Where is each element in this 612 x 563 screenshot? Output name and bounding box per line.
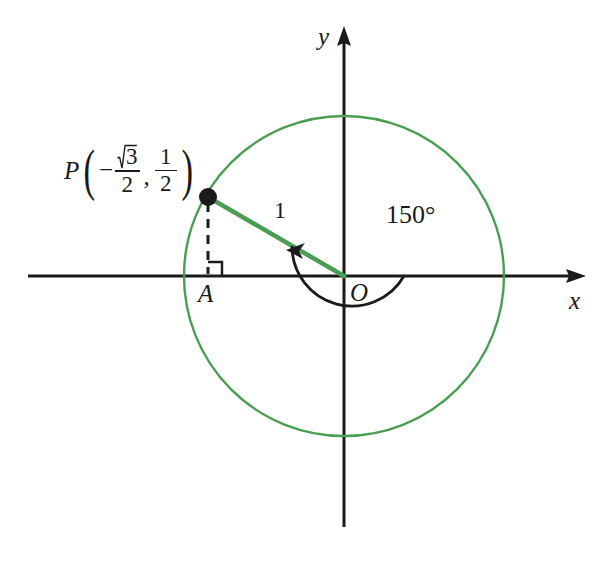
point-p-dot bbox=[199, 188, 217, 206]
diagram-canvas bbox=[0, 0, 612, 563]
radical-glyph-icon bbox=[117, 144, 126, 169]
y-axis-arrowhead-icon bbox=[337, 26, 351, 46]
x-axis bbox=[28, 269, 586, 283]
radius-length-label: 1 bbox=[274, 198, 286, 222]
right-angle-marker-icon bbox=[208, 262, 222, 276]
point-p-label: P ( − 3 2 , 1 2 ) bbox=[64, 144, 196, 197]
angle-measure-label: 150° bbox=[386, 202, 435, 228]
unit-circle-figure: y x O A 1 150° P ( − 3 2 , 1 bbox=[0, 0, 612, 563]
point-p-name: P bbox=[64, 158, 79, 183]
x-coordinate-fraction: 3 2 bbox=[115, 144, 140, 197]
x-coord-numerator-radical: 3 bbox=[115, 144, 140, 170]
y-coord-denominator: 2 bbox=[158, 171, 174, 196]
open-paren: ( bbox=[84, 150, 96, 190]
close-paren: ) bbox=[181, 150, 193, 190]
foot-point-a-label: A bbox=[198, 281, 213, 306]
square-root-icon: 3 bbox=[117, 144, 138, 169]
y-coordinate-fraction: 1 2 bbox=[155, 145, 177, 197]
y-coord-numerator: 1 bbox=[158, 145, 174, 170]
y-axis-label: y bbox=[318, 24, 329, 49]
coordinate-separator-comma: , bbox=[144, 164, 150, 189]
x-axis-arrowhead-icon bbox=[566, 269, 586, 283]
origin-label: O bbox=[350, 280, 368, 305]
x-coord-radicand: 3 bbox=[126, 144, 138, 169]
x-coord-denominator: 2 bbox=[120, 172, 136, 197]
x-coord-minus-sign: − bbox=[99, 157, 113, 182]
x-axis-label: x bbox=[569, 288, 580, 313]
